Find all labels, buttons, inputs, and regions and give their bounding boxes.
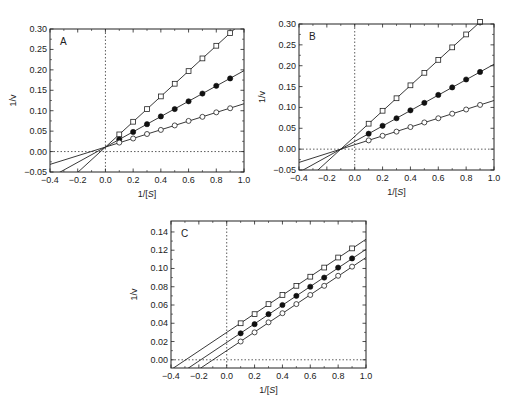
lineweaver-burk-figure: −0.4−0.20.00.20.40.60.81.0−0.050.000.050… [0,0,517,406]
x-tick-label: 0.2 [127,175,140,185]
x-tick-label: 0.8 [210,175,223,185]
y-tick-label: 0.00 [29,147,47,157]
chart-panel-a: −0.4−0.20.00.20.40.60.81.0−0.050.000.050… [8,20,250,199]
y-tick-label: 0.00 [150,355,168,365]
open-circle-marker [252,330,257,335]
series-circle-filled [238,256,355,336]
open-circle-marker [308,292,313,297]
filled-circle-marker [172,106,177,111]
open-circle-marker [214,110,219,115]
open-circle-marker [294,302,299,307]
x-tick-label: 0.2 [248,371,261,381]
y-axis-label: 1/v [129,288,139,301]
y-tick-label: 0.20 [278,61,296,71]
y-tick-label: 0.10 [150,263,168,273]
filled-circle-marker [294,293,299,298]
y-tick-label: 0.20 [29,65,47,75]
filled-circle-marker [158,114,163,119]
y-tick-label: 0.25 [278,40,296,50]
filled-circle-marker [336,265,341,270]
square-marker [228,31,233,36]
square-marker [380,108,385,113]
x-tick-label: −0.2 [69,175,87,185]
chart-panel-c: −0.4−0.20.00.20.40.60.81.00.000.020.040.… [129,221,372,395]
filled-circle-marker [131,129,136,134]
x-tick-label: 0.8 [460,173,473,183]
open-circle-marker [366,138,371,143]
filled-circle-marker [186,99,191,104]
open-circle-marker [238,339,243,344]
square-marker [131,119,136,124]
y-tick-label: −0.05 [273,165,296,175]
filled-circle-marker [408,108,413,113]
x-tick-label: 0.6 [182,175,195,185]
x-tick-label: 0.0 [348,173,361,183]
y-tick-label: 0.10 [278,102,296,112]
square-marker [408,83,413,88]
filled-circle-marker [322,275,327,280]
square-marker [172,81,177,86]
plot-frame [171,221,366,368]
y-tick-label: 0.05 [278,123,296,133]
chart-panel-b: −0.4−0.20.00.20.40.60.81.0−0.050.000.050… [257,9,500,197]
x-tick-label: −0.2 [318,173,336,183]
y-tick-label: 0.25 [29,44,47,54]
x-tick-label: 1.0 [488,173,501,183]
x-tick-label: 0.0 [220,371,233,381]
open-circle-marker [200,114,205,119]
panel-label: C [181,228,188,239]
square-marker [117,132,122,137]
y-tick-label: 0.00 [278,144,296,154]
x-tick-label: 0.8 [332,371,345,381]
open-circle-marker [322,283,327,288]
y-axis-label: 1/v [257,91,267,104]
x-tick-label: 0.4 [404,173,417,183]
x-tick-label: −0.4 [162,371,180,381]
panel-label: A [60,36,67,47]
filled-circle-marker [266,312,271,317]
x-tick-label: 0.0 [99,175,112,185]
y-tick-label: −0.05 [24,167,47,177]
square-marker [186,69,191,74]
open-circle-marker [172,123,177,128]
filled-circle-marker [450,85,455,90]
square-marker [350,246,355,251]
x-tick-label: 0.4 [276,371,289,381]
square-marker [238,321,243,326]
filled-circle-marker [228,76,233,81]
square-marker [422,70,427,75]
square-marker [464,32,469,37]
filled-circle-marker [464,77,469,82]
series-circle-open [238,264,354,344]
open-circle-marker [350,264,355,269]
filled-circle-marker [238,331,243,336]
y-tick-label: 0.30 [29,24,47,34]
y-tick-label: 0.06 [150,300,168,310]
x-tick-label: 0.4 [155,175,168,185]
x-axis-label: 1/[S] [387,187,406,197]
open-circle-marker [336,273,341,278]
square-marker [266,302,271,307]
open-circle-marker [380,133,385,138]
x-tick-label: 1.0 [238,175,251,185]
x-tick-label: 1.0 [360,371,373,381]
y-tick-label: 0.02 [150,337,168,347]
open-circle-marker [158,127,163,132]
filled-circle-marker [144,122,149,127]
open-circle-marker [408,125,413,130]
filled-circle-marker [200,91,205,96]
square-marker [158,94,163,99]
open-circle-marker [394,129,399,134]
y-axis-label: 1/v [8,94,18,107]
filled-circle-marker [214,83,219,88]
x-tick-label: 0.6 [304,371,317,381]
square-marker [436,57,441,62]
square-marker [200,56,205,61]
square-marker [294,283,299,288]
open-circle-marker [450,111,455,116]
filled-circle-marker [380,123,385,128]
open-circle-marker [228,106,233,111]
square-marker [252,312,257,317]
filled-circle-marker [422,100,427,105]
filled-circle-marker [252,322,257,327]
